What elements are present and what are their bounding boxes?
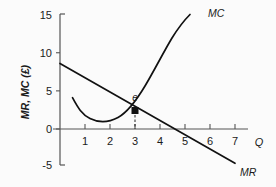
chart-plot-area: 15 10 5 0 -5 1 2 3 4 5 6 7 Q MR, MC (£) — [0, 0, 276, 187]
x-tick-label-2: 2 — [107, 135, 113, 147]
mc-curve-label: MC — [208, 7, 225, 19]
y-tick-label-10: 10 — [40, 47, 52, 59]
x-tick-label-4: 4 — [157, 135, 163, 147]
x-tick-label-3: 3 — [132, 135, 138, 147]
chart-figure: 15 10 5 0 -5 1 2 3 4 5 6 7 Q MR, MC (£) — [0, 0, 276, 187]
equilibrium-point-label: e — [132, 92, 138, 103]
x-tick-label-6: 6 — [207, 135, 213, 147]
y-tick-label-15: 15 — [40, 9, 52, 21]
y-tick-label-neg5: -5 — [42, 159, 52, 171]
y-tick-label-0: 0 — [46, 123, 52, 135]
x-axis-name: Q — [255, 136, 264, 148]
mr-curve — [60, 63, 235, 163]
mr-curve-label: MR — [240, 166, 257, 178]
x-tick-label-1: 1 — [82, 135, 88, 147]
mc-curve — [73, 15, 191, 122]
equilibrium-marker — [132, 107, 139, 114]
y-axis-title: MR, MC (£) — [19, 64, 31, 119]
x-tick-label-7: 7 — [232, 135, 238, 147]
y-tick-label-5: 5 — [46, 85, 52, 97]
